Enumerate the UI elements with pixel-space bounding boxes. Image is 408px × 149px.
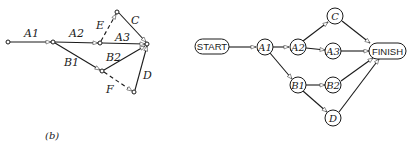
label-A2: A2 <box>68 27 84 40</box>
edge-b1-d <box>303 91 327 112</box>
activity-on-arrow-diagram: A1 A2 A3 B1 B2 C D E F (b) <box>6 10 152 141</box>
event-node <box>145 42 149 46</box>
label-E: E <box>95 19 104 32</box>
edge-D <box>135 46 147 90</box>
event-node <box>132 90 136 94</box>
edge-a2-a3 <box>306 48 325 50</box>
node-d-label: D <box>328 113 337 124</box>
node-b2-label: B2 <box>325 80 340 91</box>
label-D: D <box>142 69 152 82</box>
label-A3: A3 <box>114 31 130 44</box>
label-A1: A1 <box>23 27 39 40</box>
node-start-label: START <box>197 41 227 52</box>
event-node <box>115 10 119 14</box>
activity-on-node-diagram: START A1 A2 A3 C B1 B2 D FINISH <box>195 8 406 126</box>
node-a1-label: A1 <box>257 42 272 53</box>
edge-a1-b1 <box>270 53 292 79</box>
edge-c-finish <box>342 21 370 43</box>
event-node <box>98 41 102 45</box>
edge-a2-c <box>303 22 328 41</box>
event-node <box>51 40 55 44</box>
label-C: C <box>131 14 140 27</box>
node-finish-label: FINISH <box>372 46 403 57</box>
label-F: F <box>105 83 114 96</box>
edge-b2-finish <box>341 58 373 81</box>
node-a3-label: A3 <box>325 46 340 57</box>
edge-d-finish <box>339 59 379 112</box>
edge-A2 <box>55 42 98 43</box>
event-node <box>6 40 10 44</box>
network-diagrams: A1 A2 A3 B1 B2 C D E F (b) START A1 A2 A… <box>0 0 408 149</box>
node-a2-label: A2 <box>290 42 305 53</box>
node-b1-label: B1 <box>290 80 305 91</box>
figure-caption: (b) <box>45 130 59 141</box>
label-B2: B2 <box>105 51 121 64</box>
node-c-label: C <box>331 11 339 22</box>
event-node <box>100 69 104 73</box>
label-B1: B1 <box>63 56 79 69</box>
